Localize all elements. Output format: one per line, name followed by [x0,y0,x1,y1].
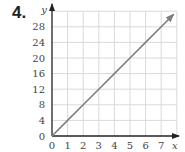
y-tick-label: 4 [39,115,45,126]
y-tick-label: 0 [39,131,45,142]
y-axis-label: y [40,4,47,15]
y-tick-label: 16 [32,68,45,79]
x-tick-label: 7 [158,140,164,151]
y-tick-label: 28 [32,21,45,32]
x-tick-label: 1 [64,140,70,151]
x-tick-label: 3 [96,140,102,151]
x-tick-label: 0 [49,140,55,151]
line-chart: 012345670481216202428xy [0,0,185,152]
x-axis-label: x [172,140,178,151]
y-tick-label: 24 [32,37,45,48]
x-tick-label: 2 [80,140,86,151]
tick-labels: 012345670481216202428xy [32,4,178,151]
x-tick-label: 4 [111,140,117,151]
y-tick-label: 12 [32,84,45,95]
data-series [52,14,174,136]
x-tick-label: 5 [127,140,133,151]
x-tick-label: 6 [142,140,148,151]
y-tick-label: 20 [32,53,45,64]
y-tick-label: 8 [39,99,45,110]
series-line [52,14,174,136]
